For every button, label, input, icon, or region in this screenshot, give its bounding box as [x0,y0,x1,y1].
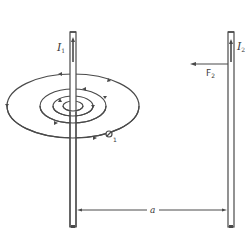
arrow-left-icon [77,209,82,212]
current-label-i2: I2 [236,40,245,53]
parallel-wires-diagram: I1 I2 F2 1 a [0,0,251,233]
arrow-icon [58,72,62,76]
arrow-right-icon [222,209,227,212]
wire-2 [228,32,234,228]
force-label-f2: F2 [206,68,215,79]
force-arrow [190,62,228,66]
arrow-icon [103,96,107,99]
field-label-b1-subscript: 1 [113,136,117,143]
field-direction-arrows [5,72,111,140]
arrow-left-icon [190,62,196,66]
wire-1 [70,32,76,228]
current-label-i1: I1 [56,41,65,54]
field-point-b1 [106,131,112,137]
separation-label: a [150,205,155,215]
